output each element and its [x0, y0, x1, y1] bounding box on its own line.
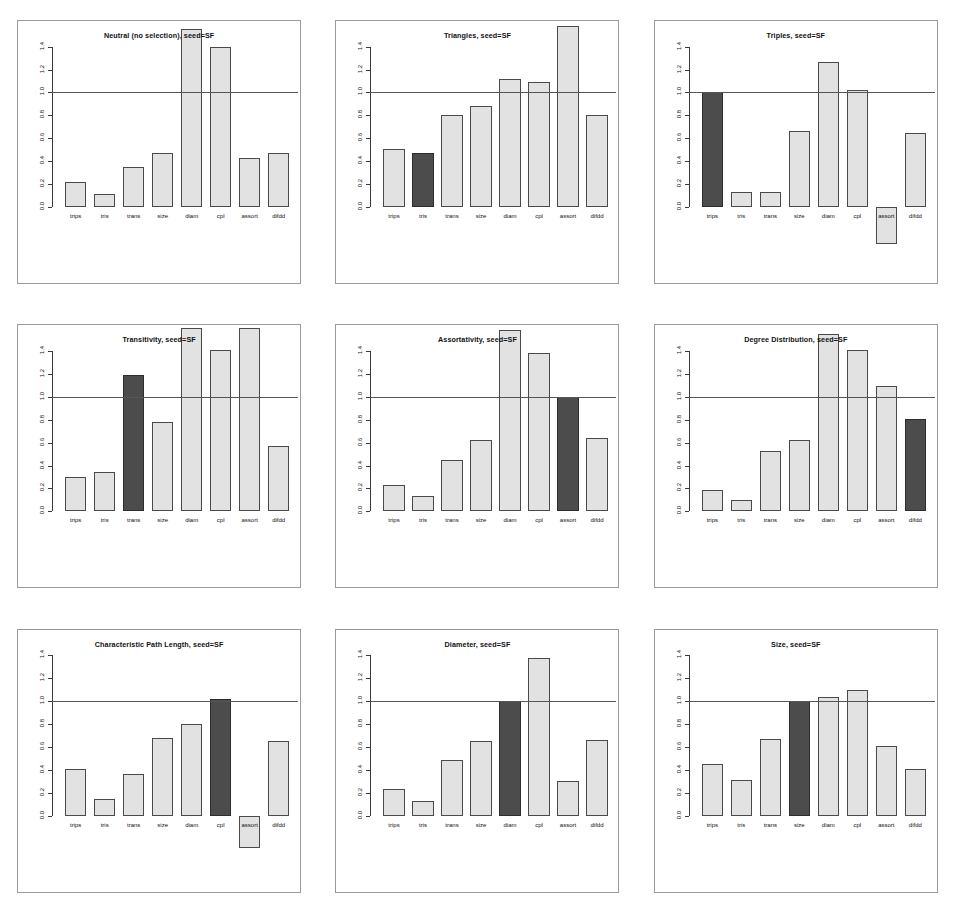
bar[interactable]: [818, 334, 839, 512]
bar[interactable]: [94, 194, 115, 207]
bar[interactable]: [152, 422, 173, 511]
chart-panel[interactable]: Triangles, seed=SF0.00.20.40.60.81.01.21…: [335, 20, 619, 284]
bar[interactable]: [876, 386, 897, 511]
bar[interactable]: [123, 774, 144, 815]
y-axis-tick-label: 0.6: [39, 738, 45, 754]
bar[interactable]: [441, 115, 462, 207]
panel-cell: Neutral (no selection), seed=SF0.00.20.4…: [0, 0, 318, 304]
y-axis-tick: [48, 161, 52, 162]
bar[interactable]: [528, 658, 549, 816]
bar[interactable]: [210, 47, 231, 207]
y-axis-tick: [366, 466, 370, 467]
bar[interactable]: [441, 760, 462, 816]
bar[interactable]: [268, 153, 289, 207]
bar[interactable]: [876, 746, 897, 816]
bar[interactable]: [528, 82, 549, 207]
bar[interactable]: [760, 451, 781, 512]
bar-series: tripstristranssizediamcplassortdifdd: [690, 35, 927, 255]
bar[interactable]: [905, 133, 926, 207]
bar[interactable]: [731, 780, 752, 816]
x-axis-tick-label: difdd: [582, 822, 611, 828]
bar[interactable]: [760, 739, 781, 816]
bar[interactable]: [181, 724, 202, 816]
bar[interactable]: [181, 29, 202, 207]
bar[interactable]: [383, 789, 404, 815]
bar[interactable]: [702, 92, 723, 207]
bar[interactable]: [94, 799, 115, 816]
chart-panel[interactable]: Neutral (no selection), seed=SF0.00.20.4…: [17, 20, 301, 284]
bar[interactable]: [557, 26, 578, 207]
chart-panel[interactable]: Size, seed=SF0.00.20.40.60.81.01.21.4tri…: [654, 629, 938, 893]
chart-panel[interactable]: Triples, seed=SF0.00.20.40.60.81.01.21.4…: [654, 20, 938, 284]
bar[interactable]: [412, 801, 433, 816]
bar[interactable]: [383, 485, 404, 511]
bar[interactable]: [586, 438, 607, 511]
bar[interactable]: [412, 153, 433, 207]
x-axis-tick-label: tris: [727, 822, 756, 828]
bar[interactable]: [65, 477, 86, 511]
x-axis-tick-label: difdd: [582, 517, 611, 523]
x-axis-tick-label: trans: [119, 213, 148, 219]
chart-panel[interactable]: Diameter, seed=SF0.00.20.40.60.81.01.21.…: [335, 629, 619, 893]
y-axis-tick-label: 0.6: [357, 738, 363, 754]
bar[interactable]: [847, 90, 868, 207]
bar[interactable]: [210, 699, 231, 816]
bar[interactable]: [789, 701, 810, 816]
bar[interactable]: [65, 769, 86, 816]
bar[interactable]: [818, 62, 839, 208]
bar[interactable]: [789, 131, 810, 207]
bar[interactable]: [499, 330, 520, 511]
bar[interactable]: [847, 690, 868, 816]
bar[interactable]: [818, 697, 839, 816]
bar[interactable]: [789, 440, 810, 511]
bar[interactable]: [760, 192, 781, 207]
bar[interactable]: [268, 446, 289, 511]
bar[interactable]: [470, 106, 491, 207]
x-axis-tick-label: diam: [814, 213, 843, 219]
y-axis-tick-label: 0.8: [676, 106, 682, 122]
bar[interactable]: [905, 419, 926, 512]
bar[interactable]: [210, 350, 231, 512]
bar[interactable]: [499, 79, 520, 207]
bar[interactable]: [557, 781, 578, 815]
bar[interactable]: [152, 153, 173, 207]
chart-panel[interactable]: Transitivity, seed=SF0.00.20.40.60.81.01…: [17, 324, 301, 588]
bar[interactable]: [702, 490, 723, 512]
chart-panel[interactable]: Assortativity, seed=SF0.00.20.40.60.81.0…: [335, 324, 619, 588]
bar[interactable]: [152, 738, 173, 816]
bar[interactable]: [847, 350, 868, 512]
bar[interactable]: [905, 769, 926, 816]
bar[interactable]: [441, 460, 462, 512]
bar-series: tripstristranssizediamcplassortdifdd: [690, 644, 927, 864]
bar[interactable]: [383, 149, 404, 207]
panel-cell: Transitivity, seed=SF0.00.20.40.60.81.01…: [0, 304, 318, 608]
bar[interactable]: [181, 328, 202, 511]
bar[interactable]: [239, 816, 260, 848]
bar[interactable]: [731, 192, 752, 207]
bar[interactable]: [470, 741, 491, 815]
y-axis-tick: [366, 678, 370, 679]
x-axis-tick-label: tris: [727, 517, 756, 523]
x-axis-tick-label: trans: [119, 822, 148, 828]
bar[interactable]: [123, 167, 144, 207]
bar[interactable]: [528, 353, 549, 511]
bar[interactable]: [702, 764, 723, 816]
bar[interactable]: [239, 328, 260, 511]
bar[interactable]: [412, 496, 433, 511]
panel-cell: Assortativity, seed=SF0.00.20.40.60.81.0…: [318, 304, 636, 608]
bar[interactable]: [499, 701, 520, 816]
bar[interactable]: [268, 741, 289, 815]
chart-panel[interactable]: Degree Distribution, seed=SF0.00.20.40.6…: [654, 324, 938, 588]
x-axis-tick-label: tris: [408, 213, 437, 219]
bar[interactable]: [586, 740, 607, 816]
chart-panel[interactable]: Characteristic Path Length, seed=SF0.00.…: [17, 629, 301, 893]
bar[interactable]: [586, 115, 607, 207]
bar[interactable]: [65, 182, 86, 207]
bar[interactable]: [123, 375, 144, 511]
bar[interactable]: [239, 158, 260, 207]
bar[interactable]: [94, 472, 115, 511]
bar[interactable]: [557, 397, 578, 512]
y-axis-tick: [685, 443, 689, 444]
bar[interactable]: [731, 500, 752, 511]
bar[interactable]: [470, 440, 491, 511]
